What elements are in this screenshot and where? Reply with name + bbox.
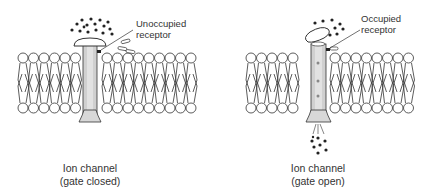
caption-open-line2: (gate open): [278, 175, 358, 188]
lipid-bilayer-right: [246, 53, 415, 113]
receptor-label-closed-line1: Unoccupied: [136, 18, 186, 29]
receptor-label-open: Occupied receptor: [361, 13, 401, 35]
caption-open-line1: Ion channel: [278, 162, 358, 175]
receptor-label-closed: Unoccupied receptor: [136, 18, 186, 40]
ions-above-closed: [70, 17, 113, 35]
ions-below-open: [310, 124, 327, 155]
receptor-label-closed-line2: receptor: [136, 29, 186, 40]
caption-closed-line2: (gate closed): [50, 175, 130, 188]
receptor-label-open-line1: Occupied: [361, 13, 401, 24]
neurotransmitter-closed: [118, 39, 135, 54]
receptor-cap-closed: [74, 38, 106, 46]
caption-closed-line1: Ion channel: [50, 162, 130, 175]
pointer-line-open: [330, 30, 360, 48]
receptor-site-closed: [97, 50, 101, 53]
caption-open: Ion channel (gate open): [278, 162, 358, 188]
receptor-label-open-line2: receptor: [361, 24, 401, 35]
caption-closed: Ion channel (gate closed): [50, 162, 130, 188]
receptor-cap-open: [305, 28, 329, 43]
lipid-bilayer-left: [18, 53, 197, 113]
receptor-site-open: [326, 48, 330, 51]
